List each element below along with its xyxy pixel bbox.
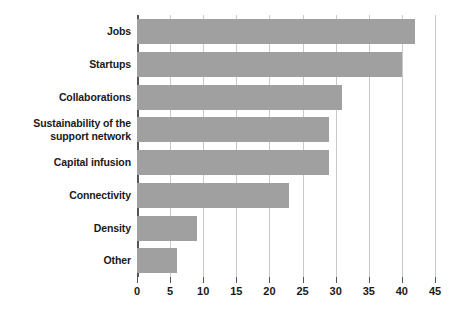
category-label-line: Jobs [0,25,131,38]
category-label: Connectivity [0,189,131,202]
tick-label: 25 [296,285,308,297]
tick-label: 15 [230,285,242,297]
category-label-line: Density [0,222,131,235]
bar [137,85,342,110]
bar-band [137,212,435,245]
category-label: Collaborations [0,91,131,104]
bar [137,52,402,77]
bar-band [137,146,435,179]
bar-series [137,15,435,277]
tick-label: 0 [134,285,140,297]
category-label-line: Capital infusion [0,156,131,169]
category-label-line: Collaborations [0,91,131,104]
tick-mark [170,277,171,283]
tick-label: 20 [263,285,275,297]
x-axis-tick-marks [137,277,435,285]
category-label: Density [0,222,131,235]
tick-mark [402,277,403,283]
tick-mark [369,277,370,283]
category-label-line: Sustainability of the [0,117,131,130]
tick-label: 35 [363,285,375,297]
bar-band [137,48,435,81]
gridline [435,15,436,277]
bar-band [137,81,435,114]
tick-label: 45 [429,285,441,297]
tick-mark [203,277,204,283]
category-label: Sustainability of thesupport network [0,117,131,142]
tick-mark [435,277,436,283]
bar-band [137,113,435,146]
plot-area [137,15,435,277]
bar-band [137,179,435,212]
category-axis-labels: JobsStartupsCollaborationsSustainability… [0,15,131,277]
category-label-line: Connectivity [0,189,131,202]
bar [137,150,329,175]
category-label-line: Other [0,254,131,267]
category-label-line: Startups [0,58,131,71]
category-label-line: support network [0,130,131,143]
tick-mark [236,277,237,283]
category-label: Jobs [0,25,131,38]
tick-label: 5 [167,285,173,297]
category-label: Capital infusion [0,156,131,169]
bar [137,117,329,142]
bar [137,183,289,208]
bar-band [137,244,435,277]
tick-label: 30 [330,285,342,297]
tick-label: 10 [197,285,209,297]
category-label: Other [0,254,131,267]
tick-label: 40 [396,285,408,297]
bar-band [137,15,435,48]
bar-chart: JobsStartupsCollaborationsSustainability… [0,0,467,313]
bar [137,216,197,241]
tick-mark [137,277,138,283]
bar [137,19,415,44]
category-label: Startups [0,58,131,71]
tick-mark [269,277,270,283]
x-axis-tick-labels: 051015202530354045 [137,285,435,303]
tick-mark [303,277,304,283]
bar [137,248,177,273]
tick-mark [336,277,337,283]
